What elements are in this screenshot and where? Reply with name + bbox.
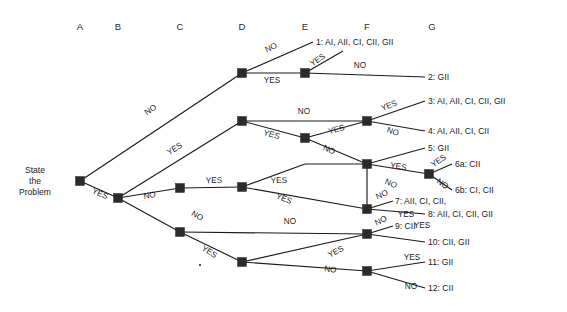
tree-nodes — [76, 69, 434, 276]
branch-labels: NO YES YES NO YES NO NO YES YES NO NO YE… — [91, 41, 450, 291]
root-node-label: State the Problem — [19, 165, 51, 197]
outcome-11: 11: GII — [428, 257, 453, 267]
branch-label-d1-yes: YES — [264, 76, 281, 85]
column-header-g: G — [428, 21, 435, 32]
node-f2[interactable] — [363, 205, 372, 214]
branch-label-b1-yes: YES — [165, 140, 184, 157]
branch-label-d3-no: YES — [275, 191, 294, 206]
node-f1[interactable] — [363, 117, 372, 126]
branch-label-d4-yes: YES — [326, 244, 345, 260]
column-header-b: B — [115, 21, 121, 32]
edge-d3-f2-no — [242, 187, 367, 209]
branch-label-c2-d4-yes: YES — [200, 244, 219, 261]
edge-d4-f3-yes — [242, 234, 367, 262]
outcome-10: 10: CII, GII — [428, 237, 470, 247]
branch-label-f1-no: NO — [386, 125, 401, 138]
branch-label-d2-yes: YES — [263, 128, 282, 141]
branch-label-d3-yes: YES — [271, 176, 288, 186]
outcome-3: 3: AI, AII, CI, CII, GII — [428, 96, 505, 106]
node-c1[interactable] — [176, 184, 185, 193]
edge-a1-d1-no — [80, 73, 242, 181]
node-d2[interactable] — [238, 117, 247, 126]
root-label-line2: the — [29, 176, 41, 186]
edge-f2-out8-yes — [367, 209, 425, 214]
column-header-a: A — [77, 21, 84, 32]
node-b1[interactable] — [114, 194, 123, 203]
edge-f3-out10-yes — [367, 234, 425, 242]
outcome-1: 1: AI, AII, CI, CII, GII — [316, 37, 393, 47]
outcome-12: 12: CII — [428, 283, 453, 293]
outcome-8: 8: AII, CI, CII, GII — [428, 209, 493, 219]
branch-label-a1-no: NO — [143, 103, 158, 117]
node-d1[interactable] — [238, 69, 247, 78]
edge-e1-out2-no — [305, 73, 425, 77]
branch-label-f2-no: NO — [375, 188, 390, 201]
node-a1[interactable] — [76, 177, 85, 186]
edge-d4-f4-no — [242, 262, 367, 271]
node-g1[interactable] — [425, 170, 434, 179]
branch-label-e2-no: NO — [322, 143, 337, 156]
branch-label-g1-no: NO — [435, 177, 450, 191]
node-f4[interactable] — [363, 267, 372, 276]
branch-label-c2-f3-no: NO — [284, 217, 296, 226]
branch-label-f2-yes: YES — [398, 210, 415, 219]
scan-speck — [199, 264, 201, 266]
node-c2[interactable] — [176, 228, 185, 237]
branch-label-f3-no: NO — [373, 214, 388, 227]
branch-label-e1-no: NO — [354, 61, 366, 70]
decision-tree-diagram: A B C D E F G — [0, 0, 567, 312]
column-header-d: D — [239, 21, 246, 32]
branch-label-f4-no: NO — [405, 282, 417, 291]
outcome-2: 2: GII — [428, 72, 449, 82]
node-d3[interactable] — [238, 183, 247, 192]
edge-c1-d3-yes — [180, 187, 242, 188]
edge-c2-f3-no — [180, 232, 367, 234]
edge-e2-e3-no — [305, 138, 367, 164]
node-e2[interactable] — [301, 134, 310, 143]
outcome-5: 5: GII — [428, 143, 449, 153]
column-header-c: C — [177, 21, 184, 32]
root-label-line3: Problem — [19, 187, 51, 197]
edge-b1-c2-no — [118, 198, 180, 232]
outcome-7: 7: AII, CI, CII, — [395, 196, 446, 206]
decision-tree-canvas: A B C D E F G — [0, 0, 567, 312]
branch-label-c1-yes: YES — [206, 176, 223, 185]
branch-label-d4-no: NO — [324, 264, 337, 274]
outcome-4: 4: AI, AII, CI, CII — [428, 126, 489, 136]
branch-label-d1-no: NO — [264, 41, 279, 54]
edge-f4-out11-yes — [367, 262, 425, 271]
branch-label-e3-yes: YES — [390, 161, 408, 172]
node-f3[interactable] — [363, 230, 372, 239]
branch-label-c2-no: NO — [190, 209, 205, 223]
branch-label-f4-yes: YES — [404, 253, 421, 262]
column-headers: A B C D E F G — [77, 21, 436, 32]
outcome-6a: 6a: CII — [455, 159, 480, 169]
node-f1b[interactable] — [363, 160, 372, 169]
branch-label-e2-yes: YES — [327, 123, 346, 136]
branch-label-f3-yes: YES — [414, 221, 431, 230]
root-label-line1: State — [25, 165, 45, 175]
node-d4[interactable] — [238, 258, 247, 267]
branch-label-b1-no: NO — [143, 190, 157, 201]
outcome-9: 9: CII — [395, 221, 416, 231]
outcome-6b: 6b: CI, CII — [455, 185, 494, 195]
node-e1[interactable] — [301, 69, 310, 78]
branch-label-d2-no: NO — [298, 107, 310, 116]
branch-label-a1-yes: YES — [91, 186, 110, 201]
column-header-e: E — [302, 21, 308, 32]
column-header-f: F — [364, 21, 370, 32]
